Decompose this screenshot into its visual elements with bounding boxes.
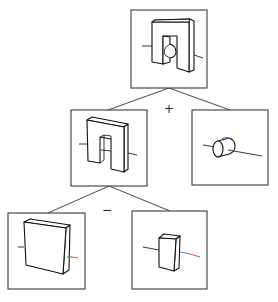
edge-arch-slab	[48, 186, 109, 213]
node-slab	[8, 213, 85, 289]
edge-root-arch	[108, 88, 169, 110]
node-arch	[71, 110, 147, 186]
difference-operator: −	[102, 203, 112, 217]
node-block	[132, 211, 207, 289]
edge-root-cylinder	[169, 88, 230, 110]
union-operator: +	[164, 102, 174, 116]
node-cylinder	[192, 110, 268, 185]
csg-tree-diagram: + −	[0, 0, 278, 302]
node-root	[131, 10, 207, 88]
edge-arch-block	[109, 186, 170, 211]
slab-shape-icon	[18, 219, 78, 274]
